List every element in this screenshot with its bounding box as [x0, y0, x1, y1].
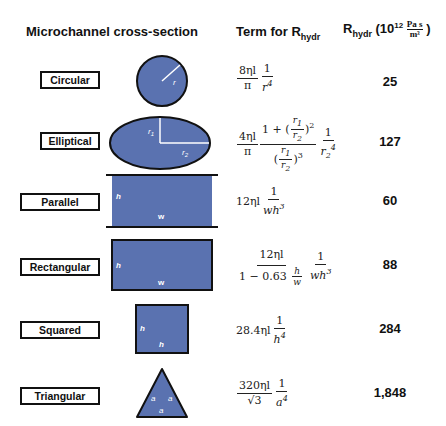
parallel-shape: h w: [105, 173, 219, 229]
header-term-sub: hydr: [301, 32, 321, 42]
svg-text:a: a: [151, 394, 156, 403]
label-squared-text: Squared: [39, 324, 81, 336]
tri-num1: 320ηl: [237, 379, 272, 394]
value-parallel: 60: [360, 193, 420, 208]
header-rhydr: Rhydr (1012 Pa s m³ ): [343, 20, 431, 39]
value-circular: 25: [360, 74, 420, 89]
header-unit-fraction: Pa s m³: [407, 20, 423, 39]
ell-num3: 1: [323, 126, 334, 141]
rect-num2: 1: [315, 250, 326, 265]
formula-elliptical: 4ηlπ 1 + (r1r2)2 (r1r2)3 1r24: [236, 115, 339, 174]
header-rhydr-sub: hydr: [352, 29, 372, 39]
formula-parallel: 12ηl1wh3: [236, 185, 288, 218]
svg-text:h: h: [140, 324, 145, 333]
rect-num1: 12ηl: [257, 245, 285, 266]
label-elliptical-text: Elliptical: [48, 135, 91, 147]
formula-squared: 28.4ηl1h4: [236, 314, 289, 347]
label-parallel-text: Parallel: [41, 196, 78, 208]
rect-den1: 1 − 0.63: [239, 270, 287, 283]
value-squared: 284: [360, 321, 420, 336]
tri-num2: 1: [276, 377, 287, 392]
label-parallel: Parallel: [20, 193, 100, 211]
sq-coef: 28.4ηl: [236, 324, 271, 337]
svg-text:h: h: [159, 340, 164, 349]
svg-text:h: h: [116, 261, 121, 270]
circ-num2: 1: [262, 62, 273, 77]
circ-den1: π: [242, 79, 253, 93]
header-cross-section-text: Microchannel cross-section: [26, 24, 198, 39]
label-elliptical: Elliptical: [40, 132, 100, 150]
radius-r-label: r: [173, 78, 176, 87]
formula-triangular: 320ηl√31a4: [236, 377, 291, 410]
header-rhydr-exp: 12: [394, 21, 403, 30]
header-rhydr-r: R: [343, 21, 352, 36]
svg-text:w: w: [157, 278, 165, 287]
formula-rectangular: 12ηl1 − 0.63 hw1wh3: [236, 245, 335, 287]
tri-den1: √3: [246, 394, 264, 408]
rectangular-shape: h w: [111, 239, 213, 291]
label-triangular: Triangular: [20, 387, 100, 405]
value-rectangular: 88: [360, 257, 420, 272]
label-triangular-text: Triangular: [35, 390, 86, 402]
elliptical-shape: r1 r2: [108, 114, 212, 172]
svg-text:h: h: [116, 192, 121, 201]
header-term: Term for Rhydr: [236, 24, 320, 42]
par-num: 1: [268, 185, 279, 200]
label-rectangular: Rectangular: [20, 258, 100, 276]
formula-circular: 8ηlπ1r4: [236, 62, 275, 95]
label-squared: Squared: [20, 321, 100, 339]
par-coef: 12ηl: [236, 195, 260, 208]
label-rectangular-text: Rectangular: [30, 261, 91, 273]
svg-text:a: a: [168, 394, 173, 403]
svg-text:a: a: [159, 406, 164, 415]
value-elliptical: 127: [360, 134, 420, 149]
circ-num1: 8ηl: [237, 64, 258, 79]
svg-text:w: w: [157, 212, 165, 221]
unit-denominator: m³: [407, 30, 423, 39]
label-circular-text: Circular: [50, 74, 90, 86]
label-circular: Circular: [40, 71, 100, 89]
circular-shape: r: [134, 53, 190, 109]
ell-one-plus: 1 +: [262, 123, 285, 136]
header-cross-section: Microchannel cross-section: [26, 24, 198, 39]
header-rhydr-unit-open: (10: [376, 21, 395, 36]
squared-shape: h h: [135, 304, 189, 354]
value-triangular: 1,848: [360, 385, 420, 400]
header-rhydr-unit-close: ): [426, 21, 430, 36]
ell-num1: 4ηl: [237, 130, 258, 145]
header-term-text: Term for R: [236, 24, 301, 39]
triangular-shape: a a a: [135, 367, 189, 419]
circ-exp: 4: [267, 79, 272, 88]
ell-den1: π: [242, 145, 253, 159]
sq-num: 1: [274, 314, 285, 329]
